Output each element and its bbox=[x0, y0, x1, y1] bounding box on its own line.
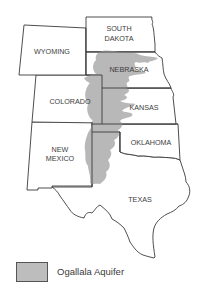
label-texas: TEXAS bbox=[128, 195, 152, 204]
label-wyoming: WYOMING bbox=[34, 47, 70, 56]
label-new-mexico-2: MEXICO bbox=[46, 154, 75, 163]
label-south-dakota-2: DAKOTA bbox=[104, 34, 133, 43]
legend-swatch-aquifer bbox=[16, 262, 48, 282]
legend-label-aquifer: Ogallala Aquifer bbox=[57, 266, 124, 277]
label-kansas: KANSAS bbox=[129, 103, 158, 112]
map: SOUTH DAKOTA WYOMING NEBRASKA COLORADO K… bbox=[0, 0, 203, 290]
label-nebraska: NEBRASKA bbox=[109, 65, 148, 74]
label-new-mexico: NEW bbox=[52, 145, 69, 154]
label-colorado: COLORADO bbox=[49, 97, 91, 106]
label-oklahoma: OKLAHOMA bbox=[131, 138, 172, 147]
label-south-dakota: SOUTH bbox=[106, 24, 131, 33]
